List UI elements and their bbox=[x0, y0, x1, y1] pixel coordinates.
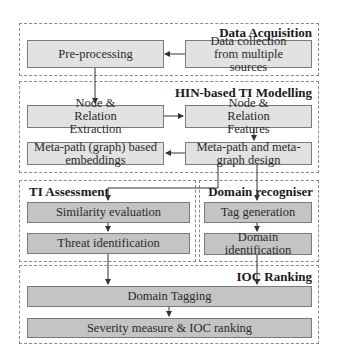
connector-arrows bbox=[0, 0, 337, 363]
arrow-design-to-similarity bbox=[108, 165, 218, 200]
